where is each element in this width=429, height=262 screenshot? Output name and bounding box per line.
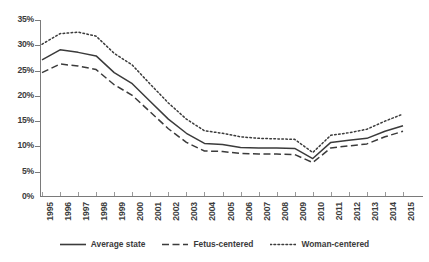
legend-item: Average state bbox=[60, 240, 146, 248]
series-line-average-state bbox=[42, 50, 403, 159]
legend-label: Average state bbox=[91, 240, 146, 248]
x-axis-tick-mark bbox=[204, 192, 205, 196]
legend-label: Fetus-centered bbox=[193, 240, 253, 248]
x-axis-tick-mark bbox=[385, 192, 386, 196]
x-axis-tick-label: 2000 bbox=[135, 202, 145, 221]
x-axis-tick-label: 2009 bbox=[298, 202, 308, 221]
x-axis-tick-mark bbox=[78, 192, 79, 196]
x-axis-tick-mark bbox=[403, 192, 404, 196]
x-axis-tick-mark bbox=[186, 192, 187, 196]
x-axis-tick-label: 1995 bbox=[45, 202, 55, 221]
x-axis-tick-label: 2012 bbox=[352, 202, 362, 221]
legend-swatch-dotted bbox=[270, 241, 296, 248]
x-axis-tick-mark bbox=[114, 192, 115, 196]
x-axis-tick-mark bbox=[295, 192, 296, 196]
y-axis-tick-label: 20% bbox=[0, 90, 34, 100]
x-axis-tick-label: 2014 bbox=[388, 202, 398, 221]
y-axis-tick-label: 35% bbox=[0, 14, 34, 24]
series-line-woman-centered bbox=[42, 32, 403, 152]
x-axis-tick-label: 2013 bbox=[370, 202, 380, 221]
x-axis-tick-label: 2005 bbox=[226, 202, 236, 221]
x-axis-tick-mark bbox=[241, 192, 242, 196]
x-axis-tick-label: 1997 bbox=[81, 202, 91, 221]
x-axis-tick-mark bbox=[349, 192, 350, 196]
x-axis-tick-label: 1998 bbox=[99, 202, 109, 221]
y-axis-tick-label: 5% bbox=[0, 166, 34, 176]
x-axis-tick-mark bbox=[223, 192, 224, 196]
x-axis-tick-mark bbox=[277, 192, 278, 196]
x-axis-tick-mark bbox=[313, 192, 314, 196]
x-axis-tick-label: 2010 bbox=[316, 202, 326, 221]
x-axis-tick-label: 2004 bbox=[207, 202, 217, 221]
y-axis-tick-label: 25% bbox=[0, 65, 34, 75]
x-axis-tick-mark bbox=[60, 192, 61, 196]
series-line-fetus-centered bbox=[42, 64, 403, 163]
x-axis-tick-label: 2006 bbox=[244, 202, 254, 221]
x-axis-tick-mark bbox=[168, 192, 169, 196]
legend-swatch-solid bbox=[60, 241, 86, 248]
x-axis-tick-mark bbox=[331, 192, 332, 196]
x-axis-tick-mark bbox=[132, 192, 133, 196]
legend-item: Fetus-centered bbox=[162, 240, 253, 248]
x-axis-tick-mark bbox=[259, 192, 260, 196]
plot-area bbox=[40, 20, 423, 197]
series-lines bbox=[41, 20, 424, 197]
x-axis-tick-label: 2002 bbox=[171, 202, 181, 221]
legend-item: Woman-centered bbox=[270, 240, 369, 248]
x-axis-tick-label: 1996 bbox=[63, 202, 73, 221]
x-axis-tick-mark bbox=[367, 192, 368, 196]
x-axis-tick-label: 2007 bbox=[262, 202, 272, 221]
x-axis-tick-label: 2001 bbox=[153, 202, 163, 221]
chart-container: 0%5%10%15%20%25%30%35% 19951996199719981… bbox=[0, 0, 429, 262]
x-axis-tick-mark bbox=[150, 192, 151, 196]
x-axis-tick-mark bbox=[96, 192, 97, 196]
chart-legend: Average stateFetus-centeredWoman-centere… bbox=[0, 240, 429, 248]
x-axis-tick-label: 2015 bbox=[406, 202, 416, 221]
x-axis-tick-mark bbox=[42, 192, 43, 196]
x-axis-tick-label: 2011 bbox=[334, 202, 344, 220]
legend-label: Woman-centered bbox=[301, 240, 369, 248]
x-axis-tick-label: 1999 bbox=[117, 202, 127, 221]
y-axis-tick-label: 30% bbox=[0, 39, 34, 49]
x-axis-tick-label: 2008 bbox=[280, 202, 290, 221]
legend-swatch-dashed bbox=[162, 241, 188, 248]
y-axis-tick-label: 15% bbox=[0, 115, 34, 125]
x-axis-tick-label: 2003 bbox=[189, 202, 199, 221]
y-axis-tick-label: 10% bbox=[0, 140, 34, 150]
y-axis-tick-label: 0% bbox=[0, 191, 34, 201]
